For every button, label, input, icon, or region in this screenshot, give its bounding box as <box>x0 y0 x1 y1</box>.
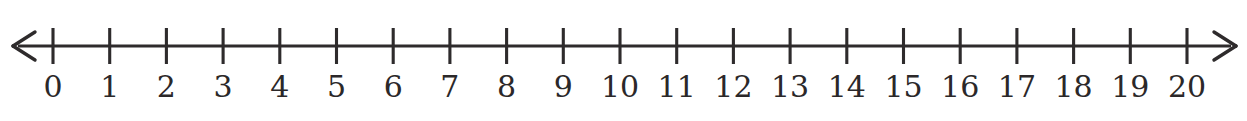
tick-label-14: 14 <box>828 69 866 104</box>
tick-label-13: 13 <box>771 69 809 104</box>
number-line-canvas: 01234567891011121314151617181920 <box>0 0 1247 121</box>
tick-marks-group <box>53 28 1187 64</box>
tick-label-1: 1 <box>100 69 119 104</box>
right-arrowhead-lower-barb <box>1214 46 1236 60</box>
tick-label-18: 18 <box>1055 69 1093 104</box>
tick-label-0: 0 <box>43 69 62 104</box>
right-arrowhead-upper-barb <box>1214 32 1236 46</box>
tick-label-3: 3 <box>214 69 233 104</box>
tick-label-9: 9 <box>554 69 573 104</box>
tick-label-4: 4 <box>270 69 289 104</box>
tick-label-8: 8 <box>497 69 516 104</box>
left-arrowhead-lower-barb <box>13 46 35 60</box>
tick-label-10: 10 <box>601 69 639 104</box>
tick-labels-group: 01234567891011121314151617181920 <box>43 69 1206 104</box>
tick-label-7: 7 <box>440 69 459 104</box>
tick-label-17: 17 <box>998 69 1036 104</box>
tick-label-11: 11 <box>658 69 696 104</box>
tick-label-6: 6 <box>384 69 403 104</box>
tick-label-12: 12 <box>714 69 752 104</box>
tick-label-15: 15 <box>884 69 922 104</box>
tick-label-2: 2 <box>157 69 176 104</box>
tick-label-20: 20 <box>1168 69 1206 104</box>
left-arrowhead-upper-barb <box>13 32 35 46</box>
tick-label-5: 5 <box>327 69 346 104</box>
tick-label-16: 16 <box>941 69 979 104</box>
number-line-figure: 01234567891011121314151617181920 <box>0 0 1247 121</box>
tick-label-19: 19 <box>1111 69 1149 104</box>
